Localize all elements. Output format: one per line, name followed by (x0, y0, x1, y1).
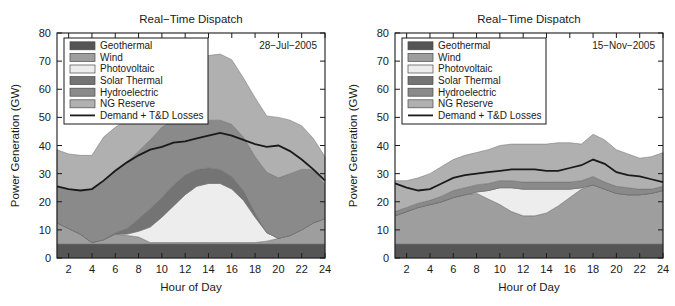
panel-left: 0102030405060708024681012141618202224Hou… (0, 0, 337, 306)
ytick-label: 40 (377, 140, 389, 152)
xtick-label: 22 (296, 263, 308, 275)
legend-swatch-geothermal (70, 42, 95, 50)
xtick-label: 20 (610, 263, 622, 275)
xtick-label: 12 (179, 263, 191, 275)
legend-label: Demand + T&D Losses (438, 110, 541, 121)
ytick-label: 0 (383, 252, 389, 264)
plot-right: 0102030405060708024681012141618202224Hou… (338, 0, 675, 306)
area-geothermal (395, 244, 663, 258)
ytick-label: 80 (39, 27, 51, 39)
date-annotation: 15−Nov−2005 (592, 40, 655, 51)
legend-label: Wind (100, 52, 123, 63)
xtick-label: 2 (66, 263, 72, 275)
ytick-label: 10 (377, 224, 389, 236)
xtick-label: 18 (249, 263, 261, 275)
legend-swatch-ng_reserve (70, 100, 95, 108)
plot-title: Real−Time Dispatch (139, 13, 242, 25)
legend-label: Photovoltaic (100, 63, 154, 74)
ytick-label: 60 (377, 83, 389, 95)
stacked-areas (395, 134, 663, 258)
xtick-label: 12 (517, 263, 529, 275)
xtick-label: 14 (540, 263, 552, 275)
ytick-label: 20 (377, 196, 389, 208)
xtick-label: 14 (202, 263, 214, 275)
ytick-label: 50 (39, 111, 51, 123)
legend-label: Solar Thermal (438, 75, 501, 86)
dispatch-figure: 0102030405060708024681012141618202224Hou… (0, 0, 675, 306)
legend-label: NG Reserve (438, 98, 493, 109)
ytick-label: 20 (39, 196, 51, 208)
xtick-label: 18 (587, 263, 599, 275)
ytick-label: 70 (377, 55, 389, 67)
area-geothermal (57, 244, 325, 258)
plot-title: Real−Time Dispatch (477, 13, 580, 25)
ytick-label: 0 (45, 252, 51, 264)
legend-swatch-hydroelectric (408, 88, 433, 96)
panel-right: 0102030405060708024681012141618202224Hou… (338, 0, 675, 306)
legend: GeothermalWindPhotovoltaicSolar ThermalH… (64, 38, 208, 124)
ytick-label: 30 (377, 168, 389, 180)
ytick-label: 10 (39, 224, 51, 236)
legend-swatch-photovoltaic (70, 65, 95, 73)
legend-label: NG Reserve (100, 98, 155, 109)
x-axis-title: Hour of Day (160, 281, 222, 293)
ytick-label: 70 (39, 55, 51, 67)
legend-label: Geothermal (100, 40, 152, 51)
xtick-label: 6 (450, 263, 456, 275)
legend-swatch-wind (408, 53, 433, 61)
legend-swatch-hydroelectric (70, 88, 95, 96)
legend-label: Wind (438, 52, 461, 63)
legend: GeothermalWindPhotovoltaicSolar ThermalH… (402, 38, 546, 124)
xtick-label: 10 (494, 263, 506, 275)
legend-label: Hydroelectric (100, 87, 158, 98)
xtick-label: 4 (89, 263, 95, 275)
legend-swatch-ng_reserve (408, 100, 433, 108)
xtick-label: 8 (474, 263, 480, 275)
legend-label: Demand + T&D Losses (100, 110, 203, 121)
legend-label: Geothermal (438, 40, 490, 51)
xtick-label: 16 (226, 263, 238, 275)
x-axis-title: Hour of Day (498, 281, 560, 293)
legend-swatch-solar_thermal (70, 77, 95, 85)
xtick-label: 20 (272, 263, 284, 275)
ytick-label: 30 (39, 168, 51, 180)
xtick-label: 8 (136, 263, 142, 275)
xtick-label: 6 (112, 263, 118, 275)
xtick-label: 24 (319, 263, 331, 275)
xtick-label: 22 (634, 263, 646, 275)
legend-swatch-wind (70, 53, 95, 61)
legend-swatch-photovoltaic (408, 65, 433, 73)
xtick-label: 2 (404, 263, 410, 275)
y-axis-title: Power Generation (GW) (347, 84, 359, 208)
ytick-label: 60 (39, 83, 51, 95)
y-axis-title: Power Generation (GW) (9, 84, 21, 208)
plot-left: 0102030405060708024681012141618202224Hou… (0, 0, 337, 306)
legend-label: Solar Thermal (100, 75, 163, 86)
ytick-label: 80 (377, 27, 389, 39)
xtick-label: 16 (564, 263, 576, 275)
legend-swatch-solar_thermal (408, 77, 433, 85)
ytick-label: 50 (377, 111, 389, 123)
xtick-label: 24 (657, 263, 669, 275)
legend-label: Hydroelectric (438, 87, 496, 98)
ytick-label: 40 (39, 140, 51, 152)
xtick-label: 10 (156, 263, 168, 275)
legend-swatch-geothermal (408, 42, 433, 50)
xtick-label: 4 (427, 263, 433, 275)
legend-label: Photovoltaic (438, 63, 492, 74)
date-annotation: 28−Jul−2005 (259, 40, 317, 51)
